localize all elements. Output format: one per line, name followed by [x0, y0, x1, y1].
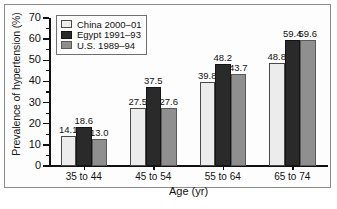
legend-label-china: China 2000–01: [77, 20, 141, 30]
legend-item-us: U.S. 1989–94: [61, 40, 141, 51]
bar-egypt-2: [215, 64, 231, 166]
bar-us-1: [161, 108, 177, 166]
bar-china-2: [200, 82, 216, 166]
bar-value-label: 59.6: [294, 29, 322, 39]
x-axis-title: Age (yr): [49, 185, 328, 197]
figure-caption-sliver: [8, 198, 333, 209]
legend-item-egypt: Egypt 1991–93: [61, 30, 141, 41]
legend-swatch-us: [61, 41, 72, 49]
legend-swatch-china: [61, 20, 72, 28]
bar-us-2: [231, 74, 247, 166]
y-tick-label: 0: [1, 160, 41, 171]
legend-label-egypt: Egypt 1991–93: [77, 30, 141, 40]
bar-china-0: [61, 136, 77, 166]
bar-china-1: [130, 108, 146, 166]
bar-value-label: 37.5: [139, 76, 167, 86]
bar-value-label: 43.7: [224, 63, 252, 73]
y-tick-label: 20: [1, 118, 41, 129]
x-tick-mark: [84, 166, 85, 170]
legend-item-china: China 2000–01: [61, 19, 141, 30]
bar-china-3: [269, 63, 285, 166]
bar-egypt-3: [285, 40, 301, 166]
y-tick-label: 30: [1, 97, 41, 108]
x-tick-mark: [223, 166, 224, 170]
y-tick-label: 10: [1, 139, 41, 150]
x-tick-label: 55 to 64: [188, 171, 258, 182]
legend-label-us: U.S. 1989–94: [77, 41, 135, 51]
bar-us-0: [92, 139, 108, 166]
y-tick-label: 50: [1, 54, 41, 65]
bar-value-label: 27.6: [155, 97, 183, 107]
x-tick-label: 65 to 74: [257, 171, 327, 182]
y-tick-label: 70: [1, 12, 41, 23]
y-tick-label: 60: [1, 33, 41, 44]
y-tick-label: 40: [1, 75, 41, 86]
x-tick-mark: [292, 166, 293, 170]
legend-swatch-egypt: [61, 31, 72, 39]
x-tick-mark: [153, 166, 154, 170]
x-tick-label: 35 to 44: [49, 171, 119, 182]
chart-legend: China 2000–01 Egypt 1991–93 U.S. 1989–94: [56, 15, 147, 55]
bar-value-label: 13.0: [85, 128, 113, 138]
chart-figure: Prevalence of hypertension (%) 706050403…: [0, 0, 337, 209]
x-tick-label: 45 to 54: [118, 171, 188, 182]
bar-us-3: [300, 40, 316, 166]
bar-value-label: 18.6: [70, 116, 98, 126]
